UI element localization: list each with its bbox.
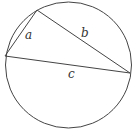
label-c: c [68, 67, 75, 81]
label-a: a [25, 28, 32, 42]
circle-triangle-diagram: a b c [0, 0, 135, 131]
side-a [5, 10, 37, 56]
label-b: b [81, 26, 89, 40]
side-b [37, 10, 130, 73]
